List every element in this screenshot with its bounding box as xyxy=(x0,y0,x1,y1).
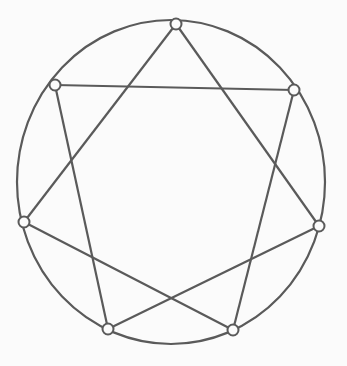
node-n6 xyxy=(19,217,30,228)
node-n5 xyxy=(103,324,114,335)
background xyxy=(0,0,347,366)
node-n3 xyxy=(314,221,325,232)
node-n2 xyxy=(289,85,300,96)
node-n4 xyxy=(228,325,239,336)
node-n7 xyxy=(50,80,61,91)
node-n1 xyxy=(171,19,182,30)
heptagram-diagram xyxy=(0,0,347,366)
